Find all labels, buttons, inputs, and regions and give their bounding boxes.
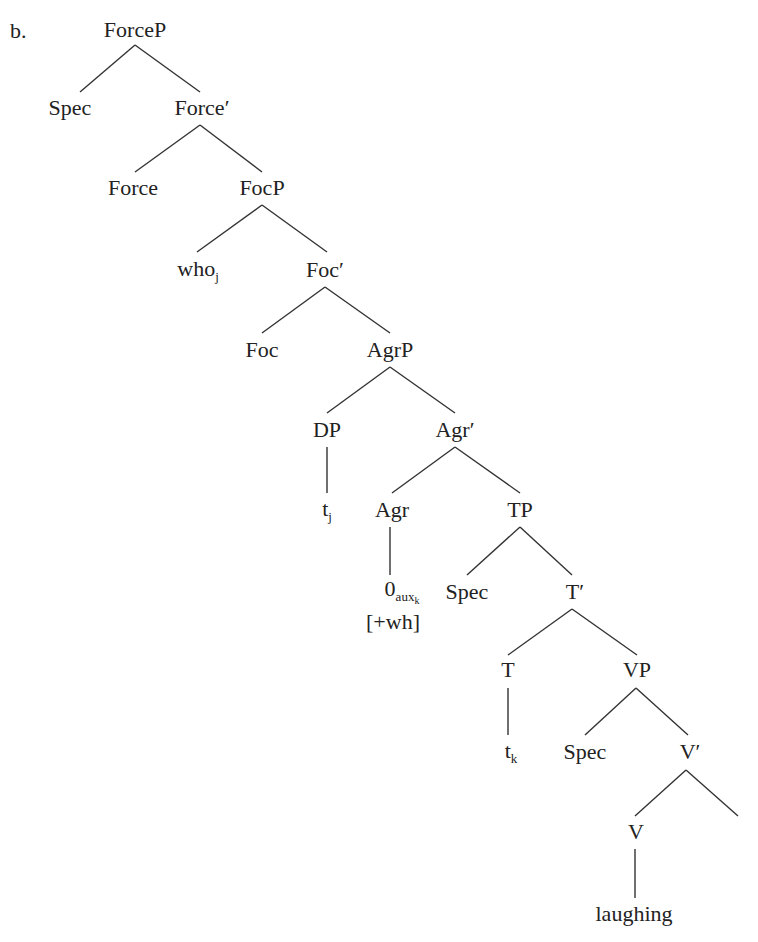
node-agr-bar: Agr′ [435, 419, 474, 441]
node-force: Force [108, 177, 158, 199]
node-agr: Agr [375, 499, 409, 521]
tree-edge [636, 688, 688, 735]
node-t: T [501, 659, 514, 681]
node-wh-feature: [+wh] [366, 611, 420, 633]
node-v-bar: V′ [680, 741, 701, 763]
node-t-bar: T′ [566, 581, 584, 603]
tree-edge [135, 125, 200, 172]
tree-edge [390, 367, 455, 413]
node-who: whoj [177, 258, 219, 283]
tree-edge [262, 205, 327, 252]
node-focp: FocP [239, 177, 284, 199]
node-agrp: AgrP [367, 339, 413, 361]
node-foc-bar: Foc′ [306, 259, 344, 281]
tree-edge [520, 527, 572, 575]
tree-edge [197, 205, 262, 252]
tree-edge [392, 447, 455, 493]
node-tp: TP [507, 499, 533, 521]
tree-edge [686, 770, 738, 816]
node-laughing: laughing [596, 903, 673, 925]
tree-edge [635, 770, 686, 816]
tree-edge [455, 447, 520, 493]
tree-edge [262, 287, 325, 333]
tree-edge [135, 45, 200, 92]
tree-edge [572, 609, 637, 655]
tree-edge [585, 688, 636, 735]
tree-edge [325, 287, 390, 333]
node-spec-vp: Spec [564, 741, 607, 763]
tree-edge [508, 609, 572, 655]
node-foc: Foc [246, 339, 279, 361]
tree-edge [200, 125, 262, 172]
node-forcep: ForceP [104, 19, 166, 41]
tree-edges [0, 0, 758, 942]
node-spec-force: Spec [49, 97, 92, 119]
node-null-aux: 0auxk [385, 578, 420, 606]
node-trace-k: tk [505, 740, 518, 765]
tree-edge [467, 527, 520, 575]
node-dp: DP [313, 419, 341, 441]
node-force-bar: Force′ [175, 97, 230, 119]
node-trace-j: tj [322, 498, 332, 523]
tree-edge [327, 367, 390, 413]
node-v: V [628, 821, 644, 843]
node-vp: VP [623, 659, 651, 681]
node-spec-tp: Spec [446, 581, 489, 603]
tree-edge [80, 45, 135, 92]
